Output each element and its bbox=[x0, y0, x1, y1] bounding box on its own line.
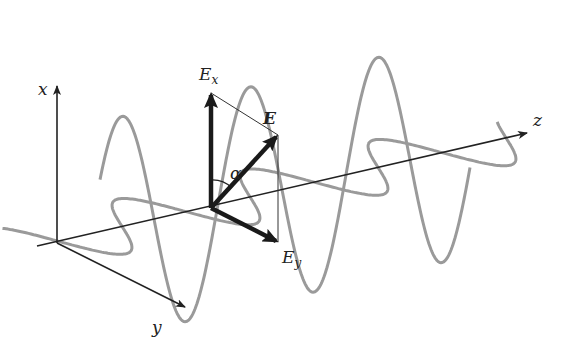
ey-vector-arrow bbox=[211, 208, 276, 241]
ex-label: Ex bbox=[198, 64, 218, 87]
ey-label-main: E bbox=[281, 247, 295, 267]
z-axis-label: z bbox=[532, 110, 543, 130]
e-vector-label: E bbox=[262, 108, 277, 128]
e-vector-arrow bbox=[211, 137, 276, 208]
ex-label-main: E bbox=[198, 64, 212, 84]
alpha-angle-label: α bbox=[230, 163, 242, 183]
em-wave-diagram: x y z Ex Ey E α bbox=[0, 0, 566, 361]
z-axis bbox=[37, 133, 527, 246]
ey-label-sub: y bbox=[293, 256, 301, 270]
ex-label-sub: x bbox=[211, 73, 218, 87]
y-axis-label: y bbox=[151, 317, 162, 337]
x-axis-label: x bbox=[38, 79, 48, 99]
ey-label: Ey bbox=[281, 247, 301, 270]
